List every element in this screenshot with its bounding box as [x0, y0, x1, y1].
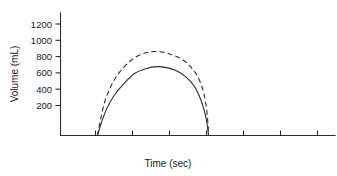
y-tick-label-800: 800 [36, 51, 52, 62]
y-tick-label-400: 400 [36, 84, 52, 95]
y-tick-label-1200: 1200 [31, 19, 52, 30]
x-axis-title: Time (sec) [145, 158, 192, 169]
y-axis-ticks [56, 24, 61, 106]
y-tick-label-600: 600 [36, 67, 52, 78]
chart-screenshot: 1200 1000 800 600 400 200 Time (sec) Vol… [0, 0, 337, 176]
y-tick-label-1000: 1000 [31, 35, 52, 46]
y-tick-label-200: 200 [36, 100, 52, 111]
dashed-curve-series [98, 51, 209, 135]
solid-curve-series [98, 67, 209, 136]
x-axis-ticks [96, 131, 318, 136]
volume-time-chart: 1200 1000 800 600 400 200 Time (sec) Vol… [0, 0, 337, 176]
y-axis-title: Volume (mL) [9, 46, 20, 103]
